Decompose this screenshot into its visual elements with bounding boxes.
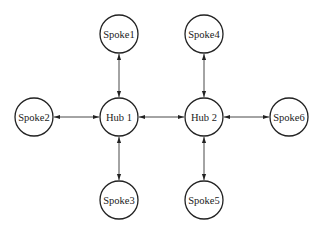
- node-hub2: Hub 2: [185, 98, 223, 136]
- node-spoke6: Spoke6: [270, 98, 308, 136]
- node-label: Spoke5: [188, 195, 220, 206]
- node-spoke1: Spoke1: [100, 15, 138, 53]
- node-label: Spoke2: [18, 112, 50, 123]
- node-spoke2: Spoke2: [15, 98, 53, 136]
- node-label: Spoke4: [188, 29, 220, 40]
- node-spoke4: Spoke4: [185, 15, 223, 53]
- node-label: Hub 1: [106, 112, 132, 123]
- hub-spoke-diagram: Spoke1Spoke2Hub 1Hub 2Spoke6Spoke3Spoke4…: [0, 0, 323, 230]
- node-label: Hub 2: [191, 112, 217, 123]
- node-label: Spoke1: [103, 29, 135, 40]
- node-label: Spoke3: [103, 195, 135, 206]
- node-spoke5: Spoke5: [185, 181, 223, 219]
- edges: [54, 54, 269, 180]
- node-hub1: Hub 1: [100, 98, 138, 136]
- node-spoke3: Spoke3: [100, 181, 138, 219]
- node-label: Spoke6: [273, 112, 305, 123]
